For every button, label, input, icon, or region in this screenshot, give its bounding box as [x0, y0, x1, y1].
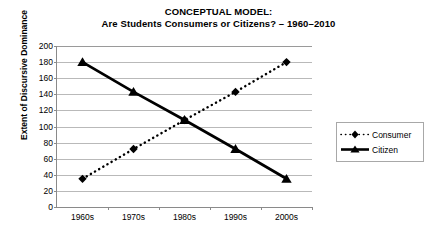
y-tick-label: 20 [23, 186, 53, 196]
legend-swatch-consumer [340, 128, 370, 141]
x-tick-label: 1990s [224, 212, 247, 222]
x-tick-mark [210, 207, 211, 210]
y-tick-label: 0 [23, 202, 53, 212]
legend-swatch-citizen [340, 143, 370, 156]
x-tick-mark [261, 207, 262, 210]
legend-label-citizen: Citizen [370, 145, 398, 155]
y-tick-label: 40 [23, 170, 53, 180]
legend-item-consumer: Consumer [340, 127, 419, 142]
y-tick-mark [54, 207, 57, 208]
data-series-layer [57, 46, 312, 207]
x-tick-label: 2000s [275, 212, 298, 222]
plot-area: 020406080100120140160180200 1960s1970s19… [56, 46, 312, 208]
x-tick-label: 1980s [173, 212, 196, 222]
chart-title-line-2: Are Students Consumers or Citizens? – 19… [0, 18, 437, 30]
chart-title: CONCEPTUAL MODEL: Are Students Consumers… [0, 6, 437, 30]
legend-label-consumer: Consumer [370, 130, 411, 140]
chart-legend: Consumer Citizen [336, 122, 424, 162]
data-point-marker [77, 57, 87, 66]
data-point-marker [78, 175, 86, 183]
x-tick-mark [159, 207, 160, 210]
y-tick-label: 160 [23, 73, 53, 83]
y-tick-label: 60 [23, 154, 53, 164]
y-tick-label: 120 [23, 105, 53, 115]
chart-title-line-1: CONCEPTUAL MODEL: [0, 6, 437, 18]
x-tick-mark [108, 207, 109, 210]
y-tick-label: 200 [23, 41, 53, 51]
x-tick-mark [312, 207, 313, 210]
chart-figure: CONCEPTUAL MODEL: Are Students Consumers… [0, 0, 437, 250]
y-tick-label: 80 [23, 138, 53, 148]
y-tick-label: 100 [23, 122, 53, 132]
x-tick-label: 1970s [122, 212, 145, 222]
data-point-marker [231, 88, 239, 96]
series-citizen [77, 57, 291, 183]
y-tick-label: 140 [23, 89, 53, 99]
y-tick-label: 180 [23, 57, 53, 67]
x-tick-label: 1960s [71, 212, 94, 222]
legend-item-citizen: Citizen [340, 142, 419, 157]
